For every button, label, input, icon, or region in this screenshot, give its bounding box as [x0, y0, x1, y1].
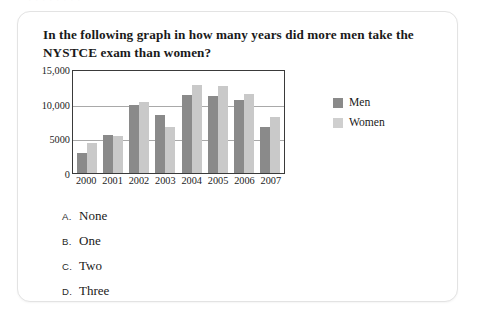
- bar-men-2007: [260, 127, 270, 173]
- bar-women-2002: [139, 102, 149, 173]
- bar-men-2003: [155, 115, 165, 173]
- option-text: Three: [79, 283, 109, 299]
- legend-item-women: Women: [333, 116, 385, 129]
- option-letter: D.: [62, 286, 79, 297]
- bar-women-2001: [113, 136, 123, 173]
- answer-option-d[interactable]: D.Three: [62, 283, 109, 308]
- bar-group: [77, 71, 97, 173]
- x-axis-labels: 20002001200220032004200520062007: [72, 175, 285, 186]
- y-axis-tick-label: 10,000: [42, 99, 70, 110]
- bar-group: [182, 71, 202, 173]
- bar-women-2003: [165, 127, 175, 173]
- bar-group: [260, 71, 280, 173]
- x-axis-tick-label: 2005: [206, 175, 231, 186]
- bar-women-2000: [87, 143, 97, 174]
- x-axis-tick-label: 2007: [258, 175, 283, 186]
- option-letter: B.: [62, 236, 79, 247]
- option-letter: A.: [62, 211, 79, 222]
- y-axis-tick-label: 5000: [49, 134, 70, 145]
- plot-area: [72, 70, 285, 174]
- bar-men-2000: [77, 153, 87, 173]
- bar-group: [129, 71, 149, 173]
- y-axis-tick-label: 15,000: [42, 65, 70, 76]
- bar-women-2007: [270, 117, 280, 173]
- x-axis-tick-label: 2003: [153, 175, 178, 186]
- bar-women-2004: [192, 85, 202, 173]
- answer-options-list: A.NoneB.OneC.TwoD.Three: [62, 208, 109, 308]
- option-text: None: [79, 208, 107, 224]
- legend-swatch-women-icon: [333, 118, 343, 128]
- x-axis-tick-label: 2000: [74, 175, 99, 186]
- bar-group: [155, 71, 175, 173]
- answer-option-b[interactable]: B.One: [62, 233, 109, 258]
- answer-option-c[interactable]: C.Two: [62, 258, 109, 283]
- x-axis-tick-label: 2006: [232, 175, 257, 186]
- bar-group: [234, 71, 254, 173]
- bar-groups: [73, 71, 284, 173]
- bar-group: [103, 71, 123, 173]
- legend-item-men: Men: [333, 96, 385, 109]
- question-card: In the following graph in how many years…: [17, 11, 458, 302]
- x-axis-tick-label: 2004: [179, 175, 204, 186]
- bar-men-2001: [103, 135, 113, 173]
- bar-men-2002: [129, 105, 139, 173]
- bar-men-2006: [234, 100, 244, 173]
- option-letter: C.: [62, 261, 79, 272]
- x-axis-tick-label: 2002: [126, 175, 151, 186]
- option-text: One: [79, 233, 101, 249]
- y-axis-tick-label: 0: [65, 169, 70, 180]
- bar-men-2005: [208, 96, 218, 173]
- answer-option-a[interactable]: A.None: [62, 208, 109, 233]
- chart-legend: Men Women: [333, 96, 385, 136]
- option-text: Two: [79, 258, 102, 274]
- bar-women-2005: [218, 86, 228, 173]
- legend-swatch-men-icon: [333, 98, 343, 108]
- bar-chart: 0500010,00015,000 2000200120022003200420…: [23, 70, 443, 198]
- bar-women-2006: [244, 94, 254, 173]
- question-text: In the following graph in how many years…: [43, 26, 433, 61]
- x-axis-tick-label: 2001: [100, 175, 125, 186]
- legend-label-women: Women: [349, 116, 385, 129]
- y-axis-labels: 0500010,00015,000: [23, 70, 70, 174]
- bar-group: [208, 71, 228, 173]
- bar-men-2004: [182, 95, 192, 173]
- legend-label-men: Men: [349, 96, 370, 109]
